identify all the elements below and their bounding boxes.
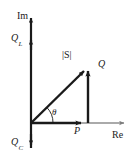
ql-subscript: L bbox=[19, 40, 23, 48]
reactive-power-label: Q bbox=[98, 59, 105, 69]
complex-power-diagram: Im Re QL QC |S| Q P θ bbox=[0, 0, 133, 162]
inductive-reactive-power-label: QL bbox=[11, 33, 22, 46]
real-power-label: P bbox=[74, 126, 80, 136]
apparent-power-label: |S| bbox=[62, 50, 72, 60]
qc-subscript: C bbox=[19, 144, 24, 152]
s-vector bbox=[31, 71, 84, 123]
qc-base: Q bbox=[11, 136, 18, 147]
capacitive-reactive-power-label: QC bbox=[11, 137, 23, 150]
real-axis-label: Re bbox=[112, 130, 123, 140]
imaginary-axis-label: Im bbox=[17, 11, 28, 21]
phase-angle-label: θ bbox=[52, 108, 56, 117]
ql-base: Q bbox=[11, 32, 18, 43]
